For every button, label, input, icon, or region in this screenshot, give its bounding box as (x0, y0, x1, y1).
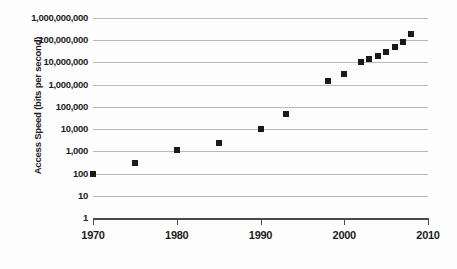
data-point (325, 78, 331, 84)
y-tick-label: 100 (10, 169, 88, 179)
y-tick-label: 10 (10, 191, 88, 201)
data-point (132, 160, 138, 166)
x-tick-mark (428, 218, 429, 225)
x-tick-mark (344, 218, 345, 225)
data-point (216, 140, 222, 146)
y-tick-label: 10,000 (10, 124, 88, 134)
x-tick-mark (261, 218, 262, 225)
data-point (400, 39, 406, 45)
x-tick-mark (93, 218, 94, 225)
data-point (283, 111, 289, 117)
y-tick-label: 1,000,000,000 (10, 13, 88, 23)
x-tick-label: 1980 (147, 229, 207, 241)
gridline (93, 174, 428, 175)
data-point (174, 147, 180, 153)
data-point (258, 126, 264, 132)
gridline (93, 62, 428, 63)
gridline (93, 40, 428, 41)
caption-strip (120, 258, 440, 266)
y-tick-label: 1,000 (10, 146, 88, 156)
y-tick-label: 1,000,000 (10, 80, 88, 90)
gridline (93, 18, 428, 19)
plot-area (93, 18, 428, 218)
data-point (375, 53, 381, 59)
y-tick-label: 100,000,000 (10, 35, 88, 45)
gridline (93, 151, 428, 152)
y-tick-label: 1 (10, 213, 88, 223)
data-point (341, 71, 347, 77)
y-tick-label: 100,000 (10, 102, 88, 112)
x-tick-label: 1990 (231, 229, 291, 241)
x-tick-label: 1970 (63, 229, 123, 241)
x-tick-mark (177, 218, 178, 225)
data-point (383, 49, 389, 55)
gridline (93, 107, 428, 108)
data-point (366, 56, 372, 62)
data-point (358, 59, 364, 65)
x-tick-label: 2000 (314, 229, 374, 241)
chart-figure: Access Speed (bits per second) 1,000,000… (0, 0, 457, 269)
data-point (392, 44, 398, 50)
data-point (408, 31, 414, 37)
gridline (93, 196, 428, 197)
data-point (90, 171, 96, 177)
x-tick-label: 2010 (398, 229, 457, 241)
y-tick-label: 10,000,000 (10, 57, 88, 67)
gridline (93, 85, 428, 86)
